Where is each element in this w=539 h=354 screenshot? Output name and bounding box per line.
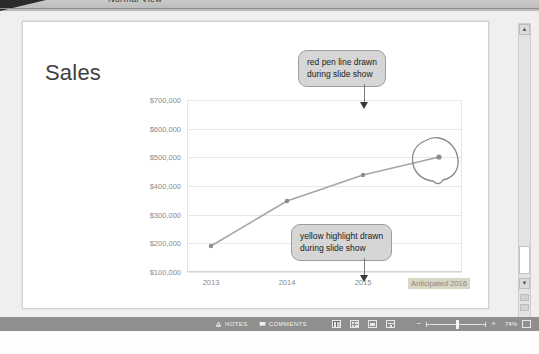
comments-button[interactable]: COMMENTS xyxy=(259,321,307,328)
ribbon-strip: Normal View xyxy=(0,0,539,11)
red-pen-arrowhead-icon xyxy=(360,102,368,109)
gridline xyxy=(187,272,462,273)
vertical-scrollbar[interactable]: ▲ ▼ xyxy=(518,23,531,325)
yellow-highlight-callout-line1: yellow highlight drawn xyxy=(300,231,383,241)
y-axis-label: $200,000 xyxy=(150,239,181,248)
x-axis-label-2013: 2013 xyxy=(203,278,220,287)
zoom-slider-thumb[interactable] xyxy=(456,320,459,329)
slide-workspace: Sales $700,000 $600,000 $500,000 $400,00… xyxy=(0,11,539,323)
zoom-slider[interactable] xyxy=(426,324,486,325)
slide-show-button[interactable] xyxy=(386,320,395,328)
zoom-in-button[interactable]: + xyxy=(491,320,496,328)
slide-title: Sales xyxy=(45,60,101,86)
y-axis-label: $100,000 xyxy=(150,268,181,277)
x-axis-label-2014: 2014 xyxy=(279,278,296,287)
slide-sorter-view-button[interactable] xyxy=(350,320,359,328)
status-bar: NOTES COMMENTS xyxy=(0,317,539,331)
zoom-controls: − + 74% xyxy=(417,320,539,328)
comments-label: COMMENTS xyxy=(269,321,307,327)
y-axis-label: $400,000 xyxy=(150,182,181,191)
powerpoint-window: Normal View Sales $700,000 $600, xyxy=(0,0,539,354)
fit-slide-to-window-icon[interactable] xyxy=(522,320,531,328)
comments-icon xyxy=(259,321,266,328)
scrollbar-thumb[interactable] xyxy=(519,246,530,274)
next-slide-button[interactable] xyxy=(520,304,529,311)
ribbon-tab-label: Normal View xyxy=(108,0,162,4)
sales-line-chart[interactable]: $700,000 $600,000 $500,000 $400,000 $300… xyxy=(115,94,470,299)
y-axis-label: $300,000 xyxy=(150,210,181,219)
notes-icon xyxy=(215,321,222,328)
yellow-highlight-arrowhead-icon xyxy=(360,275,368,282)
ribbon-corner xyxy=(0,0,46,11)
notes-button[interactable]: NOTES xyxy=(215,321,248,328)
y-axis-label: $500,000 xyxy=(150,153,181,162)
window-bottom-area xyxy=(0,331,539,354)
reading-view-button[interactable] xyxy=(368,320,377,328)
zoom-percent-label[interactable]: 74% xyxy=(501,321,517,327)
normal-view-button[interactable] xyxy=(332,320,341,328)
yellow-highlight-callout-line2: during slide show xyxy=(300,242,383,254)
red-pen-leader-line xyxy=(364,84,365,104)
zoom-out-button[interactable]: − xyxy=(417,320,422,328)
scroll-up-button[interactable]: ▲ xyxy=(519,24,530,35)
y-axis-label: $700,000 xyxy=(150,96,181,105)
yellow-highlight-callout[interactable]: yellow highlight drawn during slide show xyxy=(291,224,392,261)
ribbon-divider xyxy=(0,8,539,9)
previous-slide-button[interactable] xyxy=(520,294,529,301)
scroll-down-button[interactable]: ▼ xyxy=(519,278,530,289)
slide-canvas[interactable]: Sales $700,000 $600,000 $500,000 $400,00… xyxy=(22,21,489,309)
x-axis-label-anticipated-2016: Anticipated 2016 xyxy=(408,278,470,289)
view-buttons-group xyxy=(332,320,395,328)
notes-label: NOTES xyxy=(225,321,248,327)
red-pen-callout-line2: during slide show xyxy=(307,68,377,80)
red-pen-callout[interactable]: red pen line drawn during slide show xyxy=(298,50,386,87)
y-axis-label: $600,000 xyxy=(150,124,181,133)
red-pen-callout-line1: red pen line drawn xyxy=(307,57,377,67)
